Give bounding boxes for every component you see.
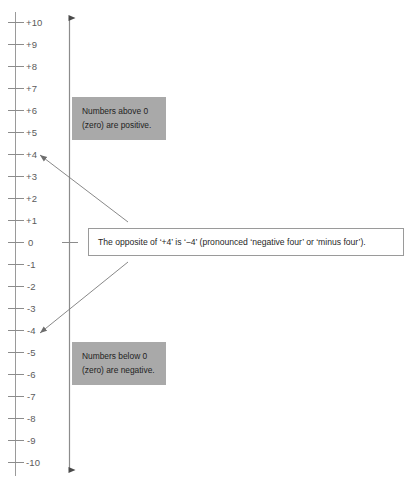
tick-label-minus-6: -6 <box>27 370 36 380</box>
tick-label-plus-7: +7 <box>26 84 37 94</box>
tick-label-plus-4: +4 <box>26 150 37 160</box>
leader-line-to-minus-four <box>40 262 128 333</box>
tick-label-minus-9: -9 <box>27 436 36 446</box>
tick-label-plus-9: +9 <box>26 40 37 50</box>
negative-note-line-2: (zero) are negative. <box>82 364 166 377</box>
opposite-value-callout: The opposite of ‘+4’ is ‘−4’ (pronounced… <box>88 228 404 256</box>
tick-label-plus-3: +3 <box>26 172 37 182</box>
tick-label-plus-2: +2 <box>26 194 37 204</box>
tick-label-minus-5: -5 <box>27 348 36 358</box>
tick-label-plus-6: +6 <box>26 106 37 116</box>
negative-numbers-note: Numbers below 0 (zero) are negative. <box>72 342 166 385</box>
tick-label-minus-1: -1 <box>27 260 36 270</box>
callout-text: The opposite of ‘+4’ is ‘−4’ (pronounced… <box>98 237 366 247</box>
positive-note-line-2: (zero) are positive. <box>82 119 166 132</box>
tick-label-minus-2: -2 <box>27 282 36 292</box>
tick-label-zero: 0 <box>28 238 33 248</box>
tick-label-plus-1: +1 <box>26 216 37 226</box>
scale-ticks <box>8 23 24 463</box>
tick-label-plus-8: +8 <box>26 62 37 72</box>
tick-label-minus-3: -3 <box>27 304 36 314</box>
number-line-diagram: +10 +9 +8 +7 +6 +5 +4 +3 +2 +1 0 -1 -2 -… <box>0 0 411 488</box>
tick-label-minus-8: -8 <box>27 414 36 424</box>
leader-line-to-plus-four <box>40 155 128 222</box>
positive-note-line-1: Numbers above 0 <box>82 105 166 118</box>
tick-label-minus-7: -7 <box>27 392 36 402</box>
tick-label-plus-5: +5 <box>26 128 37 138</box>
positive-numbers-note: Numbers above 0 (zero) are positive. <box>72 97 166 140</box>
negative-note-line-1: Numbers below 0 <box>82 350 166 363</box>
tick-label-plus-10: +10 <box>26 18 42 28</box>
tick-label-minus-10: -10 <box>26 458 40 468</box>
tick-label-minus-4: -4 <box>27 326 36 336</box>
